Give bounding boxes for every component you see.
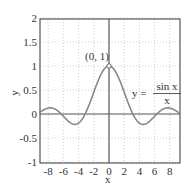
x-tick-label: -8: [44, 165, 54, 177]
x-axis-label: x: [105, 173, 111, 185]
peak-marker: [107, 64, 111, 68]
y-tick-label: -1: [28, 156, 37, 168]
x-tick-label: -4: [74, 165, 84, 177]
equation-annotation: y = sin x x: [132, 80, 181, 106]
peak-annotation: (0, 1): [85, 50, 109, 63]
y-tick-labels: -1-0.500.511.52: [20, 12, 38, 168]
y-tick-label: 1.5: [23, 36, 37, 48]
equation-lhs: y =: [132, 87, 146, 99]
x-tick-label: 2: [121, 165, 127, 177]
x-tick-label: 8: [167, 165, 173, 177]
x-tick-label: 6: [152, 165, 158, 177]
x-tick-label: 4: [137, 165, 143, 177]
equation-numerator: sin x: [156, 80, 178, 92]
x-tick-label: -6: [59, 165, 69, 177]
equation-denominator: x: [164, 94, 170, 106]
y-tick-label: -0.5: [20, 132, 38, 144]
y-tick-label: 0.5: [23, 84, 37, 96]
y-tick-label: 2: [32, 12, 38, 24]
chart: -1-0.500.511.52 -8-6-4-202468 x y (0, 1)…: [0, 0, 192, 193]
y-tick-label: 0: [32, 108, 38, 120]
sinc-curve: [40, 66, 180, 124]
y-tick-label: 1: [32, 60, 38, 72]
x-tick-label: -2: [89, 165, 98, 177]
y-axis-label: y: [8, 90, 20, 96]
